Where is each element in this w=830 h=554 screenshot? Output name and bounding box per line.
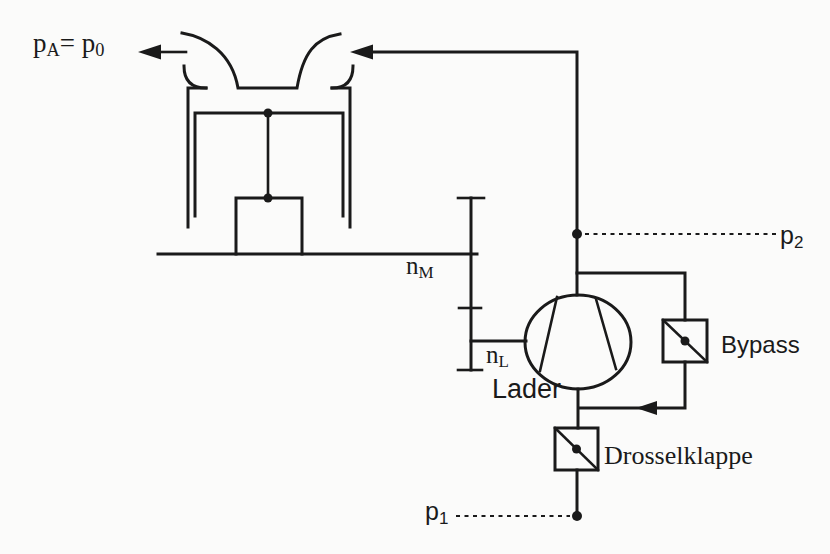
intake-arrowhead-icon [350,45,373,60]
intake-pressure-base: p [425,497,439,525]
p2-tap-dot [572,229,582,239]
throttle-branch [555,428,598,516]
intake-pipe-line [371,52,577,295]
schematic-canvas: pA= p0 nM nL Lader Bypass Drosselklappe … [0,0,830,554]
valve-ports-outer-contour [182,33,340,88]
intake-pipe [350,45,577,296]
engine-speed-sub: M [419,263,434,282]
intake-pressure-sub: 1 [439,509,448,528]
bypass-valve-dot [681,337,690,346]
engine-speed-base: n [406,252,419,279]
p2-measurement-tap [572,229,778,239]
ambient-pressure-sub2: 0 [95,40,104,60]
ambient-pressure-base: p [33,28,47,58]
p1-measurement-tap [456,511,582,521]
intake-port-inner-arc [332,66,353,88]
throttle-valve-dot [572,445,581,454]
p1-tap-dot [572,511,582,521]
engine-cylinder-icon [158,33,477,254]
label-charger: Lader [492,376,561,403]
label-ambient-pressure: pA= p0 [33,30,104,57]
label-throttle: Drosselklappe [604,443,753,469]
label-intake-pressure: p1 [425,499,448,524]
label-charger-speed: nL [486,342,509,367]
bypass-return-line [579,362,685,408]
crank-block-icon [236,198,302,254]
bypass-branch [577,273,707,415]
boost-pressure-sub: 2 [794,233,803,252]
bypass-return-arrowhead-icon [636,401,657,415]
cylinder-wall-left [188,88,206,227]
ambient-pressure-mid: = p [60,28,95,58]
charger-speed-sub: L [499,352,509,371]
cylinder-wall-right [332,88,350,227]
exhaust-port-inner-arc [184,66,206,88]
boost-pressure-base: p [780,221,794,249]
exhaust-arrowhead-icon [138,45,161,60]
exhaust-flow-arrow [138,45,186,60]
label-boost-pressure: p2 [780,223,803,248]
charger-speed-base: n [486,341,499,368]
label-engine-speed: nM [406,253,434,278]
label-bypass: Bypass [721,333,800,357]
compressor-blade-right [596,299,616,369]
ambient-pressure-sub: A [47,40,60,60]
piston-pin-dot [264,109,273,118]
